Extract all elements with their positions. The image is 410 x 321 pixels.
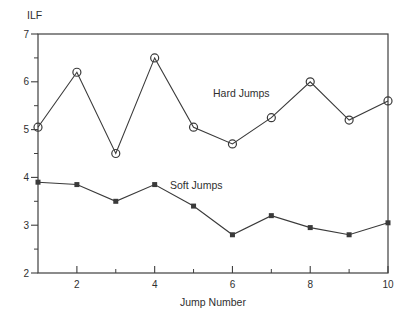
data-point-soft-jumps xyxy=(269,213,274,218)
data-point-soft-jumps xyxy=(74,182,79,187)
x-tick-label: 8 xyxy=(307,279,313,290)
data-point-soft-jumps xyxy=(308,225,313,230)
chart-figure: 234567246810 ILF Hard Jumps Soft Jumps J… xyxy=(0,0,410,321)
y-tick-label: 4 xyxy=(23,172,29,183)
x-axis-title: Jump Number xyxy=(38,297,388,308)
plot-border xyxy=(38,34,388,273)
y-tick-label: 5 xyxy=(23,124,29,135)
y-tick-label: 6 xyxy=(23,76,29,87)
x-tick-label: 2 xyxy=(74,279,80,290)
y-tick-label: 2 xyxy=(23,268,29,279)
data-point-soft-jumps xyxy=(191,204,196,209)
series-line-hard-jumps xyxy=(38,58,388,154)
y-axis-title: ILF xyxy=(27,10,42,21)
data-point-soft-jumps xyxy=(347,232,352,237)
data-point-soft-jumps xyxy=(113,199,118,204)
data-point-soft-jumps xyxy=(230,232,235,237)
series-label-soft-jumps: Soft Jumps xyxy=(170,180,223,191)
data-point-soft-jumps xyxy=(36,180,41,185)
x-tick-label: 6 xyxy=(230,279,236,290)
data-point-soft-jumps xyxy=(152,182,157,187)
plot-canvas: 234567246810 xyxy=(0,0,410,321)
x-tick-label: 10 xyxy=(382,279,394,290)
x-tick-label: 4 xyxy=(152,279,158,290)
data-point-soft-jumps xyxy=(386,220,391,225)
series-label-hard-jumps: Hard Jumps xyxy=(213,88,270,99)
y-tick-label: 3 xyxy=(23,220,29,231)
y-tick-label: 7 xyxy=(23,29,29,40)
